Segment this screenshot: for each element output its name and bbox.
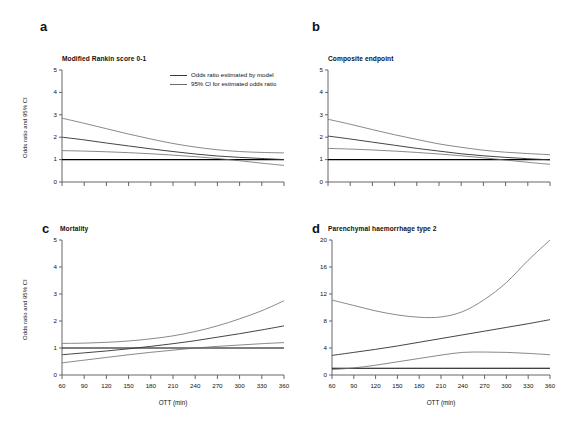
odds-ratio-curve [332,320,550,356]
plot-area-d [0,0,588,421]
ci-curve [332,352,550,370]
panel-d: dParenchymal haemorrhage type 2OTT (min)… [0,0,588,421]
figure-canvas: aModified Rankin score 0-1Odds ratio and… [0,0,588,421]
ci-curve [332,240,550,318]
